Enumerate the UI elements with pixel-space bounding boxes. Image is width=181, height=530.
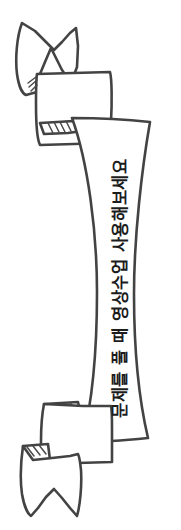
banner-text-group: 문제를 풀 때 영상수업 사용해보세요 — [111, 159, 130, 418]
illustration-canvas: 문제를 풀 때 영상수업 사용해보세요 — [0, 0, 181, 530]
banner-text: 문제를 풀 때 영상수업 사용해보세요 — [111, 159, 130, 418]
ribbon-banner-illustration: 문제를 풀 때 영상수업 사용해보세요 — [0, 0, 181, 530]
